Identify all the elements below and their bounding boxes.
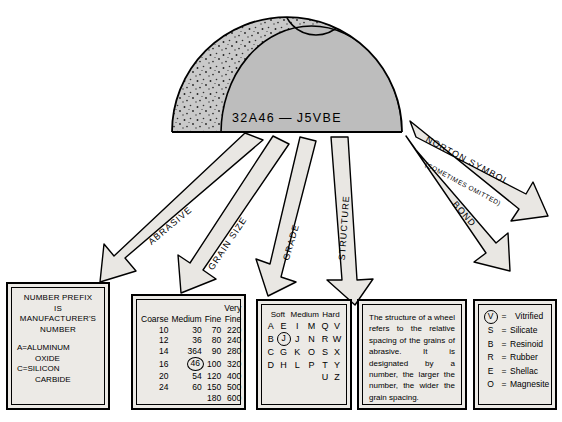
grain-cell: 600 <box>224 393 244 404</box>
grade-cell-circled: J <box>277 332 291 346</box>
grade-cell: P <box>304 359 319 371</box>
grade-cell: H <box>277 359 291 371</box>
table-row: 12 36 80 240 <box>141 335 244 346</box>
table-row: 16 46 100 320 <box>141 357 244 371</box>
grade-cell <box>304 371 319 383</box>
table-row: B J J N R W <box>265 332 343 346</box>
grade-circled-value: J <box>277 332 291 346</box>
grain-cell: 364 <box>171 346 204 357</box>
bond-name: Shellac <box>510 365 547 379</box>
bond-row-e: E = Shellac <box>483 365 547 379</box>
prefix-box: NUMBER PREFIX IS MANUFACTURER'S NUMBER A… <box>6 282 110 410</box>
arrow-label-bond: BOND <box>451 199 478 229</box>
table-row: D H L P T Y <box>265 359 343 371</box>
grade-cell: C <box>265 346 277 358</box>
table-row: U Z <box>265 371 343 383</box>
grain-header-coarse: Coarse <box>141 314 171 325</box>
grade-header-hard: Hard <box>319 309 343 320</box>
bond-row-s: S = Silicate <box>483 324 547 338</box>
grade-cell: V <box>331 320 343 332</box>
grade-cell: I <box>291 320 304 332</box>
grain-cell: 36 <box>171 335 204 346</box>
bond-circled-value: V <box>484 310 498 324</box>
grade-cell <box>265 371 277 383</box>
grade-cell: N <box>304 332 319 346</box>
grade-cell: A <box>265 320 277 332</box>
table-row: 20 54 120 400 <box>141 371 244 382</box>
table-row: A E I M Q V <box>265 320 343 332</box>
bond-eq: = <box>498 378 510 392</box>
bond-code: O <box>483 378 498 392</box>
prefix-entry-a: A=ALUMINUM <box>17 343 99 354</box>
grain-cell: 180 <box>205 393 225 404</box>
grain-cell: 150 <box>205 382 225 393</box>
bond-name: Vitrified <box>510 310 547 324</box>
grain-cell: 90 <box>205 346 225 357</box>
grain-cell: 220 <box>224 325 244 336</box>
grain-circled-value: 46 <box>187 357 204 371</box>
structure-text: The structure of a wheel refers to the r… <box>369 312 455 403</box>
table-row: C G K O S X <box>265 346 343 358</box>
prefix-title-3: NUMBER <box>17 325 99 336</box>
grain-cell-circled: 46 <box>171 357 204 371</box>
bond-eq: = <box>498 324 510 338</box>
prefix-title-2: MANUFACTURER'S <box>17 314 99 325</box>
grain-header-very-fine: Fine <box>224 314 244 325</box>
grade-cell: K <box>291 346 304 358</box>
bond-code: R <box>483 351 498 365</box>
bond-eq: = <box>498 310 510 324</box>
grade-cell: J <box>291 332 304 346</box>
grain-cell: 16 <box>141 357 171 371</box>
grain-cell: 80 <box>205 335 225 346</box>
grade-cell: O <box>304 346 319 358</box>
grade-cell: L <box>291 359 304 371</box>
grain-cell: 400 <box>224 371 244 382</box>
grain-cell: 14 <box>141 346 171 357</box>
bond-name: Rubber <box>510 351 547 365</box>
grain-cell <box>141 393 171 404</box>
grain-header-very: Very <box>224 303 244 314</box>
grade-header-soft: Soft <box>265 309 291 320</box>
grade-cell: G <box>277 346 291 358</box>
grain-size-table: Very Coarse Medium Fine Fine 10 30 70 22… <box>141 303 244 403</box>
bond-eq: = <box>498 351 510 365</box>
grain-cell: 10 <box>141 325 171 336</box>
grade-cell: R <box>319 332 331 346</box>
prefix-name-c: SILICON <box>27 364 59 373</box>
bond-row-o: O = Magnesite <box>483 378 547 392</box>
structure-box: The structure of a wheel refers to the r… <box>357 299 467 410</box>
prefix-name-a: ALUMINUM <box>27 343 70 352</box>
grain-cell: 320 <box>224 357 244 371</box>
grade-header-medium: Medium <box>291 309 319 320</box>
grain-cell: 120 <box>205 371 225 382</box>
prefix-entry-c: C=SILICON <box>17 364 99 375</box>
grain-cell: 280 <box>224 346 244 357</box>
bond-code: B <box>483 338 498 352</box>
prefix-name2-c: CARBIDE <box>17 375 99 386</box>
grain-cell: 500 <box>224 382 244 393</box>
prefix-title-1: IS <box>17 304 99 315</box>
bond-eq: = <box>498 365 510 379</box>
grain-size-box: Very Coarse Medium Fine Fine 10 30 70 22… <box>131 294 246 410</box>
bond-row-r: R = Rubber <box>483 351 547 365</box>
grain-cell: 12 <box>141 335 171 346</box>
grain-cell: 20 <box>141 371 171 382</box>
grade-cell: B <box>265 332 277 346</box>
bond-code: S <box>483 324 498 338</box>
prefix-title-0: NUMBER PREFIX <box>17 293 99 304</box>
grain-header-fine: Fine <box>205 314 225 325</box>
grain-cell: 24 <box>141 382 171 393</box>
bond-name: Silicate <box>510 324 547 338</box>
grade-cell: U <box>319 371 331 383</box>
grade-cell: D <box>265 359 277 371</box>
grade-cell: T <box>319 359 331 371</box>
grain-cell: 70 <box>205 325 225 336</box>
grain-header-row-1: Very <box>141 303 244 314</box>
grain-cell: 54 <box>171 371 204 382</box>
grain-cell <box>171 393 204 404</box>
grade-cell: W <box>331 332 343 346</box>
grade-cell: S <box>319 346 331 358</box>
grade-box: Soft Medium Hard A E I M Q V B <box>256 299 352 410</box>
grade-cell: Z <box>331 371 343 383</box>
grain-header-medium: Medium <box>171 314 204 325</box>
